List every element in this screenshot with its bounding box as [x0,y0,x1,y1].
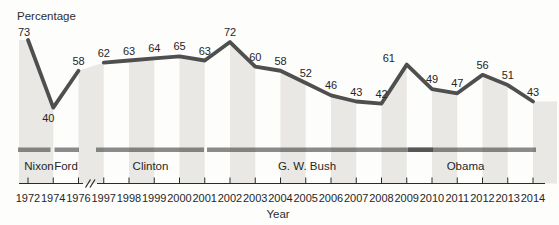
year-tick-label: 1976 [66,192,90,204]
value-label: 40 [42,112,54,124]
year-tick-label: 1998 [117,192,141,204]
president-term-bar [408,148,536,153]
value-label: 62 [98,47,110,59]
trend-line-segment [104,42,533,104]
value-label: 65 [173,40,185,52]
value-label: 49 [426,73,438,85]
value-label: 60 [249,51,261,63]
value-label: 47 [451,77,463,89]
shaded-band [483,75,508,184]
chart-canvas: 7340586263646563726058524643426149475651… [0,0,559,225]
value-label: 51 [502,69,514,81]
president-label: G. W. Bush [278,160,336,172]
value-label: 52 [300,67,312,79]
year-tick-label: 2014 [521,192,545,204]
president-label: Obama [447,160,485,172]
value-label: 73 [18,26,30,38]
year-tick-label: 2002 [218,192,242,204]
year-tick-label: 1999 [142,192,166,204]
president-label: Clinton [133,160,169,172]
value-label: 63 [199,45,211,57]
value-label: 61 [383,52,395,64]
year-tick-label: 2006 [319,192,343,204]
year-tick-label: 2008 [369,192,393,204]
value-label: 56 [476,59,488,71]
year-tick-label: 1972 [16,192,40,204]
shaded-band [79,63,104,184]
shaded-band [533,102,557,184]
year-tick-label: 2011 [445,192,469,204]
value-label: 46 [325,79,337,91]
value-label: 43 [527,86,539,98]
president-term-bar [96,148,204,153]
year-tick-label: 2005 [294,192,318,204]
year-tick-label: 2009 [395,192,419,204]
value-label: 43 [350,86,362,98]
value-label: 63 [123,45,135,57]
year-tick-label: 2012 [470,192,494,204]
value-label: 64 [148,42,160,54]
year-tick-label: 2010 [420,192,444,204]
line-chart-figure: Percentage Year 734058626364656372605852… [0,0,559,225]
year-tick-label: 2007 [344,192,368,204]
year-tick-label: 1997 [92,192,116,204]
value-label: 72 [224,26,236,38]
value-label: 42 [375,88,387,100]
year-tick-label: 2001 [193,192,217,204]
year-tick-label: 2013 [496,192,520,204]
president-label: Ford [54,160,78,172]
value-label: 58 [72,55,84,67]
value-label: 58 [274,55,286,67]
year-tick-label: 1974 [41,192,65,204]
president-term-bar [207,148,433,153]
year-tick-label: 2003 [243,192,267,204]
president-term-bar [18,148,51,153]
year-tick-label: 2000 [167,192,191,204]
president-term-bar [55,148,80,153]
year-tick-label: 2004 [268,192,292,204]
president-label: Nixon [24,160,53,172]
shaded-band [180,56,205,183]
